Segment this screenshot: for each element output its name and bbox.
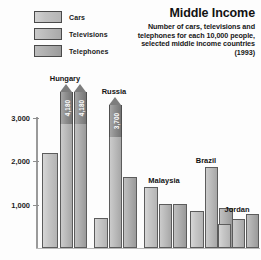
- value-arrow-russia-televisions: 3,700: [109, 97, 122, 137]
- group-label-jordan: Jordan: [215, 205, 259, 214]
- bar-group-malaysia: Malaysia: [142, 0, 190, 260]
- bar-russia-telephones: [123, 177, 137, 248]
- bar-jordan-telephones: [246, 214, 259, 248]
- group-label-hungary: Hungary: [40, 74, 90, 83]
- arrow-head-icon: [60, 84, 72, 92]
- bar-russia-cars: [94, 218, 108, 248]
- y-tick-label-2000: 2,000: [11, 157, 30, 166]
- bar-malaysia-cars: [144, 187, 158, 248]
- bar-group-hungary: Hungary 4,180 4,180: [40, 0, 90, 260]
- bar-hungary-cars: [42, 153, 58, 248]
- y-axis-line: [36, 117, 38, 248]
- value-arrow-hungary-telephones: 4,180: [74, 84, 87, 124]
- bar-malaysia-televisions: [159, 204, 172, 248]
- y-tick-mark-3000: [33, 118, 39, 119]
- arrow-value-hungary-telephones: 4,180: [77, 100, 84, 117]
- bar-jordan-cars: [218, 224, 231, 248]
- arrow-value-russia-televisions: 3,700: [112, 113, 119, 130]
- group-label-russia: Russia: [92, 87, 136, 96]
- arrow-value-hungary-televisions: 4,180: [63, 100, 70, 117]
- arrow-head-icon: [109, 97, 121, 105]
- arrow-body: 3,700: [109, 105, 122, 137]
- y-tick-label-1000: 1,000: [11, 201, 30, 210]
- y-tick-label-3000: 3,000: [11, 114, 30, 123]
- bar-malaysia-telephones: [173, 204, 187, 248]
- bar-group-russia: Russia 3,700: [92, 0, 140, 260]
- bar-brazil-cars: [190, 211, 204, 248]
- bar-jordan-televisions: [232, 219, 245, 248]
- y-tick-mark-1000: [33, 205, 39, 206]
- bar-group-jordan: Jordan: [216, 0, 260, 260]
- group-label-malaysia: Malaysia: [140, 176, 188, 185]
- arrow-body: 4,180: [60, 92, 73, 124]
- chart-container: Cars Televisions Telephones Middle Incom…: [0, 0, 261, 260]
- plot-area: 3,000 2,000 1,000 Hungary 4,180 4,180: [0, 0, 261, 260]
- arrow-head-icon: [74, 84, 86, 92]
- y-tick-mark-2000: [33, 161, 39, 162]
- arrow-body: 4,180: [74, 92, 87, 124]
- value-arrow-hungary-televisions: 4,180: [60, 84, 73, 124]
